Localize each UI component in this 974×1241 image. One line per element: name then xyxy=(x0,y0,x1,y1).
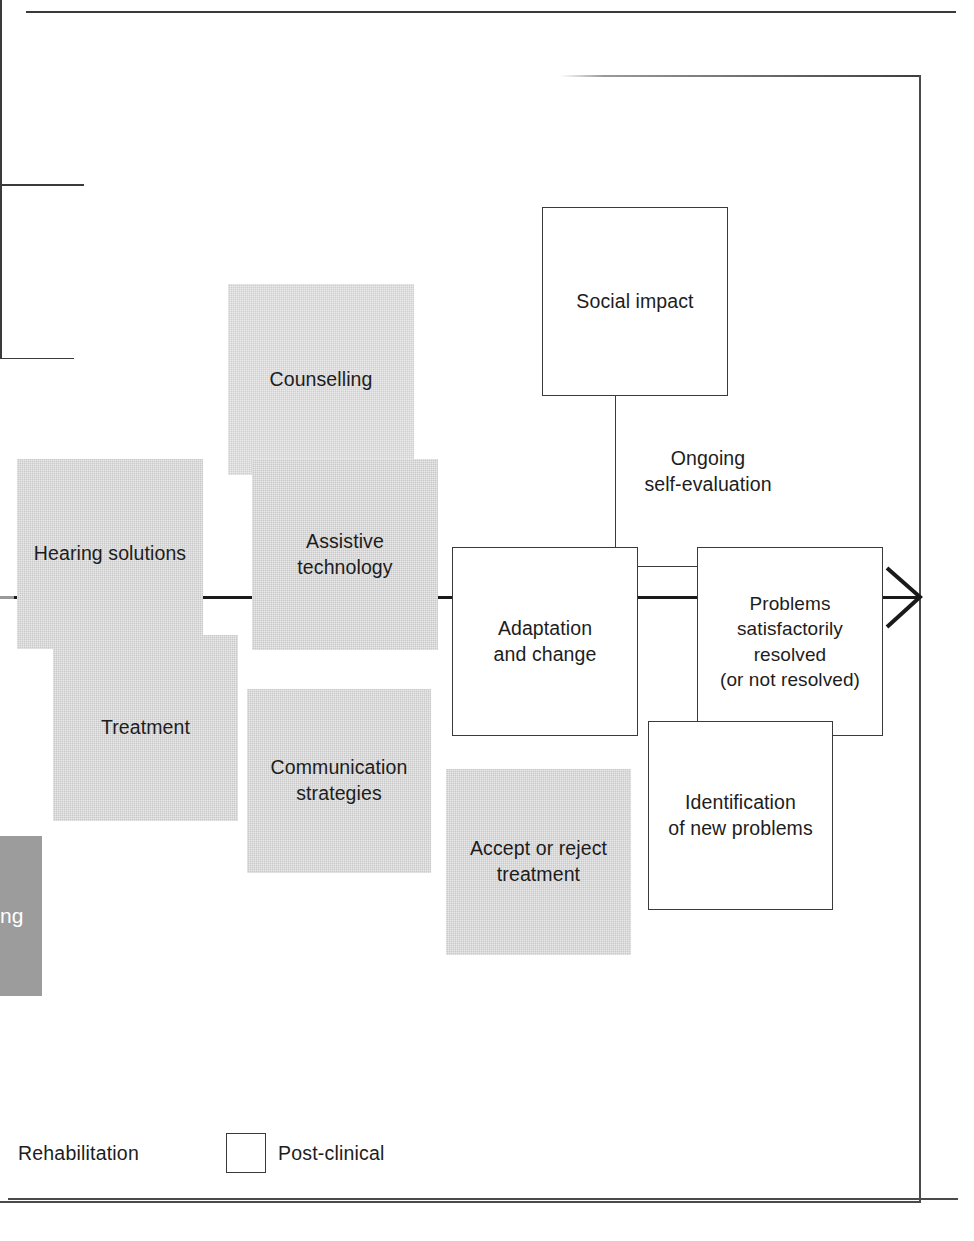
top-horizontal-rule xyxy=(26,11,956,13)
connector-ongoing-top xyxy=(0,358,74,360)
node-treatment-label: Treatment xyxy=(101,715,190,741)
connector-ongoing-bottom xyxy=(0,184,84,186)
connector-spine-fade xyxy=(0,596,14,599)
node-assistive-technology-label: Assistive technology xyxy=(297,529,392,580)
bottom-horizontal-rule xyxy=(8,1198,958,1200)
legend-rehabilitation-label: Rehabilitation xyxy=(18,1142,139,1165)
flow-arrowhead-icon xyxy=(884,564,930,632)
frame-top-border xyxy=(560,75,921,77)
node-identification-new-problems-label: Identification of new problems xyxy=(668,790,813,841)
node-counselling[interactable]: Counselling xyxy=(228,284,414,475)
node-ongoing-self-evaluation-label: Ongoing self-evaluation xyxy=(644,446,771,497)
node-counselling-label: Counselling xyxy=(270,367,373,393)
node-ongoing-self-evaluation[interactable]: Ongoing self-evaluation xyxy=(615,377,800,567)
node-communication-strategies-label: Communication strategies xyxy=(271,755,408,806)
node-adaptation-and-change[interactable]: Adaptation and change xyxy=(452,547,638,736)
node-social-impact-label: Social impact xyxy=(576,289,693,315)
legend-post-clinical-label: Post-clinical xyxy=(278,1142,385,1165)
node-identification-new-problems[interactable]: Identification of new problems xyxy=(648,721,833,910)
node-problems-resolved[interactable]: Problems satisfactorily resolved (or not… xyxy=(697,547,883,736)
node-hearing-solutions-label: Hearing solutions xyxy=(34,541,186,567)
node-hearing-solutions[interactable]: Hearing solutions xyxy=(17,459,203,649)
connector-ongoing-right xyxy=(0,186,2,358)
node-communication-strategies[interactable]: Communication strategies xyxy=(247,689,431,873)
diagram-canvas: Social impact Ongoing self-evaluation Ad… xyxy=(0,0,974,1241)
node-accept-or-reject-treatment[interactable]: Accept or reject treatment xyxy=(446,769,631,955)
node-adaptation-and-change-label: Adaptation and change xyxy=(494,616,597,667)
node-social-impact[interactable]: Social impact xyxy=(542,207,728,396)
connector-social-to-adaptation xyxy=(0,0,2,184)
legend-post-clinical-swatch xyxy=(226,1133,266,1173)
node-clipped-left[interactable]: ng xyxy=(0,836,42,996)
node-assistive-technology[interactable]: Assistive technology xyxy=(252,459,438,650)
connector-spine-seg2 xyxy=(196,596,258,599)
frame-bottom-border xyxy=(0,1201,921,1203)
node-treatment[interactable]: Treatment xyxy=(53,635,238,821)
frame-right-border xyxy=(919,75,921,1203)
node-clipped-left-label: ng xyxy=(0,902,24,930)
node-accept-or-reject-treatment-label: Accept or reject treatment xyxy=(470,836,607,887)
node-problems-resolved-label: Problems satisfactorily resolved (or not… xyxy=(720,591,860,691)
